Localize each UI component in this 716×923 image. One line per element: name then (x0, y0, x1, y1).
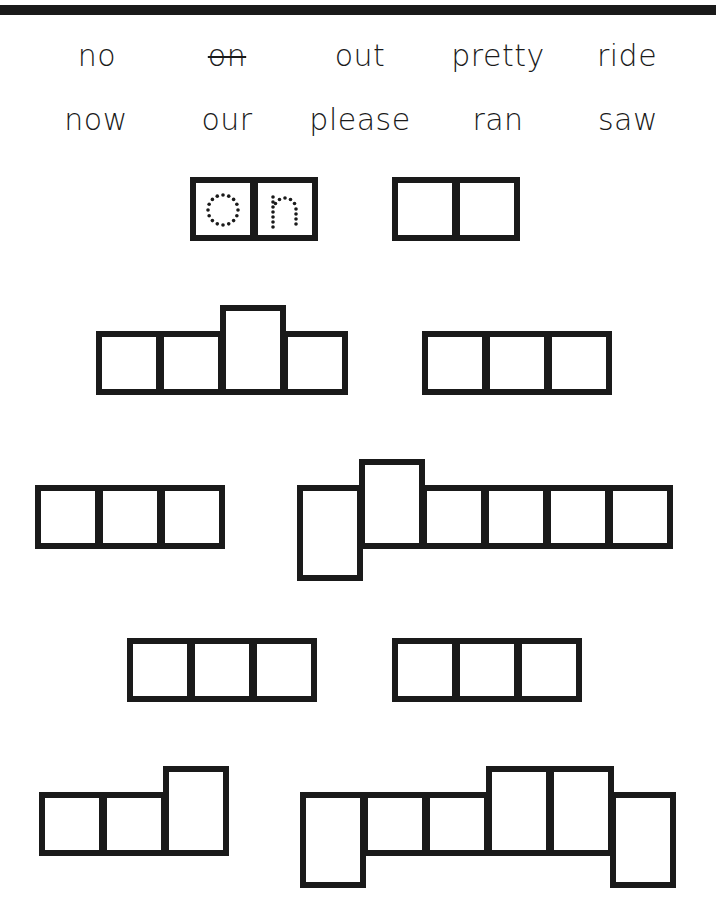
word-bank-item: no (78, 38, 116, 73)
trace-dot (294, 222, 298, 226)
trace-dot (215, 194, 219, 198)
word-bank-item: out (335, 38, 386, 73)
trace-dot (274, 202, 278, 206)
word-bank-item: please (309, 102, 410, 137)
letter-box-short[interactable] (158, 331, 224, 395)
trace-dot (236, 208, 240, 212)
letter-box-tall[interactable] (163, 766, 229, 856)
trace-dot (271, 195, 275, 199)
word-bank-item: pretty (451, 38, 544, 73)
letter-box-short[interactable] (454, 177, 520, 241)
word-bank-item: now (64, 102, 127, 137)
traced-letter-n (259, 183, 311, 235)
letter-box-tall[interactable] (548, 766, 614, 856)
trace-dot (271, 215, 275, 219)
letter-box-short[interactable] (516, 638, 582, 702)
letter-box-short[interactable] (35, 485, 101, 549)
letter-box-short[interactable] (97, 485, 163, 549)
trace-dot (271, 220, 275, 224)
trace-dot (206, 208, 210, 212)
trace-dot (235, 202, 239, 206)
letter-box-short[interactable] (251, 638, 317, 702)
letter-box-short[interactable] (159, 485, 225, 549)
trace-dot (278, 198, 282, 202)
trace-dot (271, 205, 275, 209)
letter-box-short[interactable] (454, 638, 520, 702)
trace-dot (235, 214, 239, 218)
letter-box-tall[interactable] (220, 305, 286, 395)
letter-box-descender[interactable] (610, 792, 676, 888)
trace-guide (196, 183, 250, 235)
letter-box-short[interactable] (190, 177, 256, 241)
trace-dot (227, 222, 231, 226)
letter-box-short[interactable] (546, 331, 612, 395)
letter-box-short[interactable] (483, 485, 549, 549)
letter-box-descender[interactable] (297, 485, 363, 581)
trace-dot (227, 194, 231, 198)
letter-box-short[interactable] (392, 638, 458, 702)
letter-box-tall[interactable] (359, 459, 425, 549)
letter-box-short[interactable] (362, 792, 428, 856)
letter-box-descender[interactable] (300, 792, 366, 888)
trace-dot (221, 193, 225, 197)
trace-guide (258, 183, 312, 235)
traced-letter-o (197, 183, 249, 235)
word-bank-item: our (201, 102, 252, 137)
word-bank-item: on (208, 38, 246, 73)
letter-box-short[interactable] (96, 331, 162, 395)
trace-dot (271, 225, 275, 229)
trace-dot (232, 198, 236, 202)
letter-box-short[interactable] (101, 792, 167, 856)
trace-dot (207, 202, 211, 206)
trace-dot (294, 207, 298, 211)
trace-dot (283, 196, 287, 200)
letter-box-short[interactable] (189, 638, 255, 702)
word-bank-item: saw (598, 102, 658, 137)
trace-dot (221, 223, 225, 227)
trace-dot (293, 202, 297, 206)
trace-dot (211, 219, 215, 223)
letter-box-short[interactable] (127, 638, 193, 702)
trace-dot (271, 210, 275, 214)
word-bank-item: ride (597, 38, 657, 73)
trace-dot (211, 198, 215, 202)
trace-dot (232, 219, 236, 223)
letter-box-short[interactable] (39, 792, 105, 856)
letter-box-short[interactable] (484, 331, 550, 395)
letter-box-short[interactable] (282, 331, 348, 395)
letter-box-tall[interactable] (486, 766, 552, 856)
letter-box-short[interactable] (545, 485, 611, 549)
trace-dot (294, 212, 298, 216)
letter-box-short[interactable] (421, 485, 487, 549)
letter-box-short[interactable] (392, 177, 458, 241)
letter-box-short[interactable] (424, 792, 490, 856)
word-bank: no on out pretty ride now our please ran… (0, 0, 716, 160)
trace-dot (289, 198, 293, 202)
trace-dot (215, 222, 219, 226)
letter-box-short[interactable] (607, 485, 673, 549)
trace-dot (294, 217, 298, 221)
word-bank-item: ran (472, 102, 523, 137)
letter-box-short[interactable] (252, 177, 318, 241)
letter-box-short[interactable] (422, 331, 488, 395)
trace-dot (207, 214, 211, 218)
